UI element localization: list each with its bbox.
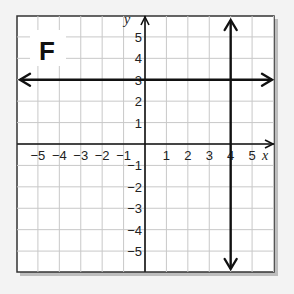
y-tick-label: 5: [135, 30, 142, 45]
x-tick-label: 2: [184, 148, 191, 163]
y-tick-label: 1: [135, 116, 142, 131]
x-tick-label: −3: [73, 148, 88, 163]
x-tick-label: −5: [31, 148, 46, 163]
x-tick-label: 5: [248, 148, 255, 163]
x-tick-label: −4: [52, 148, 67, 163]
y-tick-label: −3: [127, 201, 142, 216]
y-axis-label: y: [122, 12, 131, 27]
x-tick-label: −2: [95, 148, 110, 163]
y-tick-label: 4: [135, 51, 142, 66]
x-tick-label: 3: [206, 148, 213, 163]
x-tick-label: 1: [163, 148, 170, 163]
x-axis-label: x: [261, 148, 269, 163]
y-tick-label: 2: [135, 94, 142, 109]
y-tick-label: −4: [127, 223, 142, 238]
y-tick-label: −5: [127, 244, 142, 259]
coordinate-plane-figure: −5−4−3−2−11234554321−1−2−3−4−5 F y x: [0, 0, 294, 294]
y-tick-label: −1: [127, 158, 142, 173]
y-tick-label: −2: [127, 180, 142, 195]
panel-label: F: [39, 36, 55, 66]
